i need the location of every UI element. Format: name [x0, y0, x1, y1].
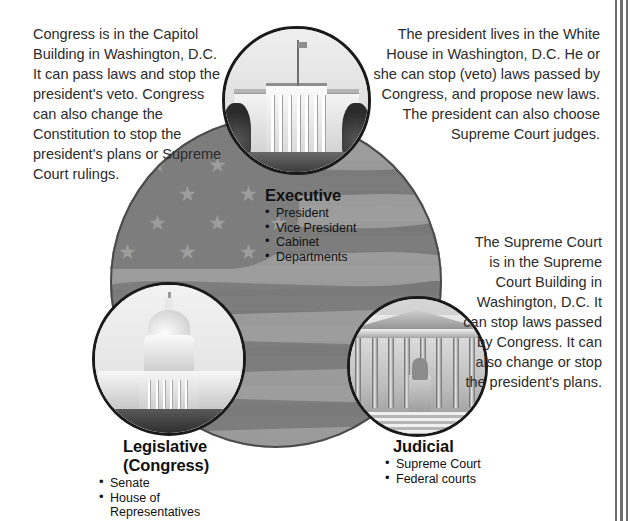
flag-star-icon: ★ [178, 241, 197, 262]
list-item: Cabinet [265, 235, 356, 250]
infographic-page: Three Branches of the U.S. Government ★★… [0, 0, 630, 521]
executive-list: President Vice President Cabinet Departm… [265, 206, 356, 264]
executive-heading: Executive [265, 186, 356, 205]
judicial-heading: Judicial [393, 437, 481, 456]
edge-rule-2 [620, 0, 623, 521]
flag-star-icon: ★ [208, 212, 227, 233]
page-edge-rules [612, 0, 630, 521]
flag-star-icon: ★ [239, 183, 258, 204]
list-item: Vice President [265, 221, 356, 236]
branch-label-legislative: Legislative (Congress) Senate House of R… [99, 437, 209, 520]
edge-rule-3 [626, 0, 628, 521]
judicial-list: Supreme Court Federal courts [385, 457, 481, 486]
judicial-description: The Supreme Court is in the Supreme Cour… [462, 232, 602, 392]
list-item: Departments [265, 250, 356, 265]
list-item: Federal courts [385, 472, 481, 487]
flag-star-icon: ★ [118, 241, 137, 262]
list-item: Supreme Court [385, 457, 481, 472]
legislative-list: Senate House of Representatives [99, 476, 209, 520]
list-item: Senate [99, 476, 209, 491]
legislative-description: Congress is in the Capitol Building in W… [33, 24, 229, 184]
list-item: President [265, 206, 356, 221]
legislative-heading-line2: (Congress) [123, 456, 209, 475]
white-house-photo [222, 26, 371, 175]
branch-label-judicial: Judicial Supreme Court Federal courts [385, 437, 481, 486]
edge-rule-1 [615, 0, 617, 521]
flag-star-icon: ★ [118, 183, 137, 204]
flag-star-icon: ★ [239, 241, 258, 262]
legislative-heading-line1: Legislative [123, 437, 209, 456]
flag-star-icon: ★ [178, 183, 197, 204]
branch-label-executive: Executive President Vice President Cabin… [265, 186, 356, 264]
executive-description: The president lives in the White House i… [372, 24, 600, 144]
capitol-building-photo [92, 282, 246, 436]
list-item: House of Representatives [99, 491, 202, 520]
flag-star-icon: ★ [148, 212, 167, 233]
page-title: Three Branches of the U.S. Government [0, 0, 612, 6]
